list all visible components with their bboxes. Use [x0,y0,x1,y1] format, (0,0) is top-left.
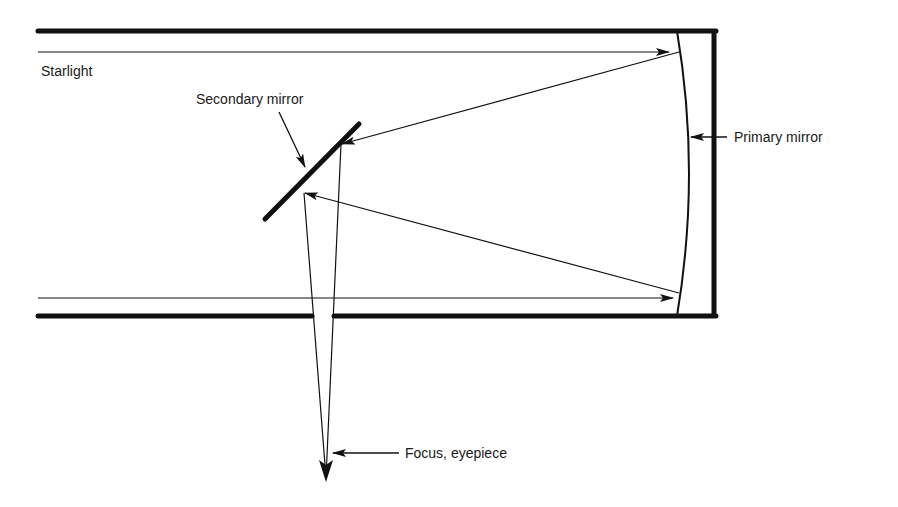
focus-ray-right [326,144,341,478]
primary-mirror-label: Primary mirror [734,129,823,145]
secondary-mirror-label: Secondary mirror [196,91,304,107]
secondary-mirror-pointer [279,112,305,167]
focus-ray-left [304,193,326,478]
focus-arrowhead-icon [319,460,333,482]
focus-label: Focus, eyepiece [405,445,507,461]
reflected-ray-top [342,52,679,144]
telescope-diagram: Starlight Secondary mirror Primary mirro… [0,0,898,507]
secondary-mirror [265,124,359,219]
reflected-ray-bottom [305,193,679,293]
primary-mirror [677,31,689,316]
telescope-tube [38,29,716,318]
starlight-label: Starlight [41,63,92,79]
